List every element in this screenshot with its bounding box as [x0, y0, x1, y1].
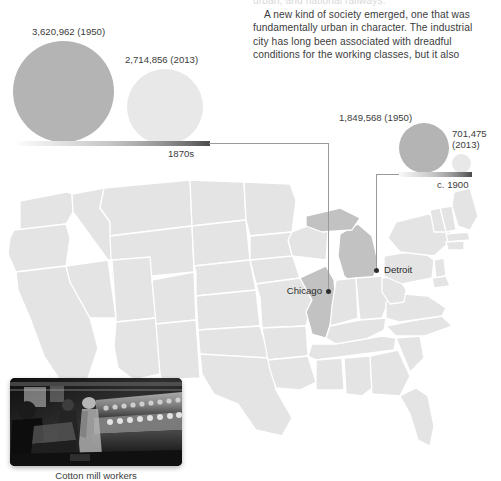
cotton-mill-photo	[10, 378, 182, 466]
photo-caption: Cotton mill workers	[10, 470, 182, 481]
cotton-mill-photo-block: Cotton mill workers	[10, 378, 182, 466]
detroit-2013-label: 701,475	[452, 128, 487, 140]
chicago-2013-label: 2,714,856 (2013)	[125, 54, 198, 66]
article-line-0: urban, and national railways.	[253, 0, 497, 8]
detroit-2013-bubble	[452, 154, 471, 173]
chicago-2013-bubble	[127, 69, 203, 145]
article-line-3: city has long been associated with dread…	[253, 35, 497, 49]
infographic-stage: urban, and national railways. A new kind…	[0, 0, 501, 481]
article-text-column: urban, and national railways. A new kind…	[253, 0, 497, 62]
detroit-2013-sublabel: (2013)	[452, 139, 480, 151]
detroit-leader-vertical	[376, 174, 377, 270]
chicago-1950-bubble	[13, 41, 114, 142]
detroit-leader-horizontal	[376, 174, 399, 175]
chicago-era-label: 1870s	[168, 148, 194, 159]
chicago-1950-label: 3,620,962 (1950)	[32, 26, 105, 38]
detroit-city-dot	[374, 268, 379, 273]
detroit-1950-bubble	[399, 123, 449, 173]
article-line-2: fundamentally urban in character. The in…	[253, 21, 497, 35]
detroit-city-label: Detroit	[384, 264, 412, 275]
chicago-city-dot	[326, 289, 331, 294]
detroit-era-label: c. 1900	[437, 179, 468, 190]
article-line-4: conditions for the working classes, but …	[253, 48, 497, 62]
detroit-timeline-bar	[398, 172, 472, 177]
article-line-1: A new kind of society emerged, one that …	[253, 8, 497, 22]
chicago-timeline-bar	[18, 141, 210, 146]
chicago-leader-horizontal	[209, 143, 329, 144]
chicago-leader-vertical	[328, 143, 329, 291]
chicago-city-label: Chicago	[287, 285, 322, 296]
detroit-1950-label: 1,849,568 (1950)	[339, 112, 412, 124]
